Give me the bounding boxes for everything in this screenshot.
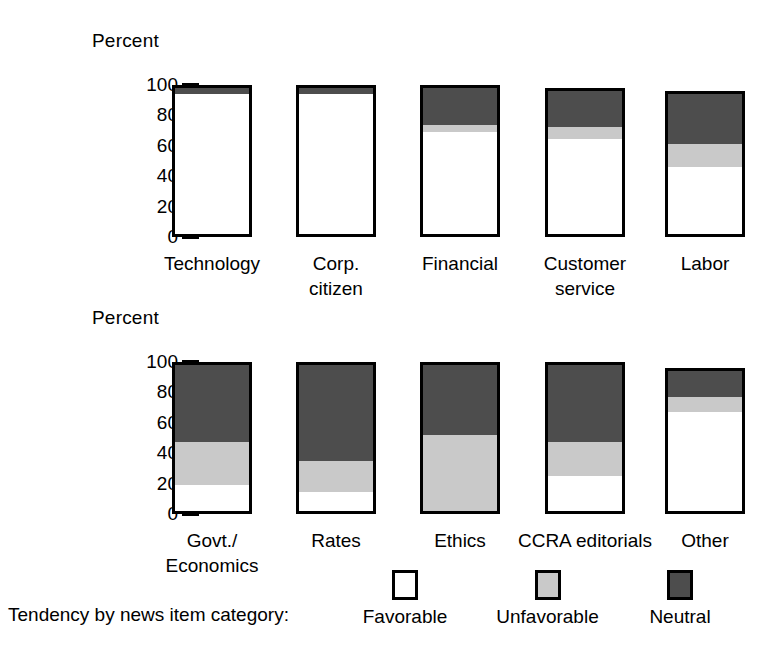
bar-segment-neutral (668, 371, 742, 397)
y-tick-label: 40 (100, 443, 178, 463)
bar-segment-neutral (423, 88, 497, 125)
bar-segment-neutral (175, 365, 249, 442)
bar-segment-favorable (668, 167, 742, 234)
x-axis-category-label: Labor (630, 251, 780, 276)
stacked-bar (665, 368, 745, 514)
legend-swatch-neutral (667, 570, 693, 600)
stacked-bar (296, 85, 376, 237)
y-tick-label: 0 (100, 504, 178, 524)
y-axis-title-bottom: Percent (92, 307, 159, 329)
stacked-bar (545, 88, 625, 237)
y-tick-label: 20 (100, 474, 178, 494)
bar-segment-favorable (548, 476, 622, 511)
legend-entry-unfavorable: Unfavorable (475, 570, 620, 628)
bar-segment-unfavorable (548, 127, 622, 139)
bar-segment-unfavorable (299, 461, 373, 492)
y-tick-label: 20 (100, 197, 178, 217)
stacked-bar (545, 362, 625, 514)
stacked-bar (296, 362, 376, 514)
bar-segment-neutral (548, 365, 622, 442)
legend-label-unfavorable: Unfavorable (475, 606, 620, 628)
stacked-bar (665, 91, 745, 237)
stacked-bar (172, 362, 252, 514)
y-axis-title-top: Percent (92, 30, 159, 52)
legend-label-neutral: Neutral (625, 606, 735, 628)
y-tick-label: 40 (100, 166, 178, 186)
bar-segment-unfavorable (423, 125, 497, 132)
y-tick-label: 60 (100, 136, 178, 156)
bar-segment-unfavorable (175, 442, 249, 484)
chart-legend: Tendency by news item category: Favorabl… (0, 570, 784, 640)
legend-entry-favorable: Favorable (345, 570, 465, 628)
legend-swatch-unfavorable (535, 570, 561, 600)
bar-segment-unfavorable (668, 397, 742, 412)
stacked-bar (420, 362, 500, 514)
bar-segment-neutral (548, 91, 622, 127)
bar-segment-favorable (175, 485, 249, 511)
y-tick-label: 100 (100, 75, 178, 95)
legend-swatch-favorable (392, 570, 418, 600)
bar-segment-favorable (423, 132, 497, 234)
chart-panel-top: Percent 100806040200TechnologyCorp. citi… (0, 0, 784, 310)
y-tick-label: 100 (100, 352, 178, 372)
y-tick-label: 60 (100, 413, 178, 433)
bar-segment-favorable (548, 139, 622, 234)
bar-segment-neutral (299, 365, 373, 461)
bar-segment-unfavorable (668, 144, 742, 167)
bar-segment-favorable (175, 94, 249, 234)
chart-panel-bottom: Percent 100806040200Govt./ EconomicsRate… (0, 277, 784, 577)
legend-label-favorable: Favorable (345, 606, 465, 628)
bar-segment-unfavorable (548, 442, 622, 476)
y-tick-label: 80 (100, 105, 178, 125)
y-tick-label: 80 (100, 382, 178, 402)
bar-segment-favorable (668, 412, 742, 511)
stacked-bar (420, 85, 500, 237)
stacked-bar (172, 85, 252, 237)
bar-segment-unfavorable (423, 435, 497, 511)
legend-entry-neutral: Neutral (625, 570, 735, 628)
legend-caption: Tendency by news item category: (8, 604, 289, 626)
bar-segment-favorable (299, 492, 373, 511)
y-tick-label: 0 (100, 227, 178, 247)
bar-segment-neutral (423, 365, 497, 435)
bar-segment-neutral (668, 94, 742, 144)
bar-segment-favorable (299, 94, 373, 234)
x-axis-category-label: Other (630, 528, 780, 553)
